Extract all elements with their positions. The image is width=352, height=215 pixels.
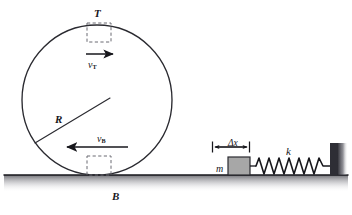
diagram-canvas	[0, 0, 352, 215]
velocity-subscript: T	[92, 63, 96, 70]
right-wall	[330, 143, 337, 175]
spring-coil	[256, 158, 330, 174]
label-spring-constant: k	[286, 146, 291, 157]
rolling-wheel	[22, 25, 172, 175]
label-bottom-point: B	[112, 191, 119, 202]
label-mass: m	[216, 164, 223, 174]
mass-block	[228, 157, 250, 175]
bottom-dashed-box	[87, 156, 111, 175]
label-radius: R	[55, 114, 62, 125]
label-top-point: T	[94, 8, 101, 19]
ground-shadow	[4, 175, 348, 192]
label-top-velocity: vT	[88, 60, 97, 70]
label-displacement: Δx	[228, 139, 238, 149]
physics-diagram: T B R vT vB Δx m k	[0, 0, 352, 215]
right-wall-shadow	[337, 143, 348, 175]
label-bottom-velocity: vB	[97, 134, 106, 144]
velocity-subscript: B	[101, 137, 105, 144]
